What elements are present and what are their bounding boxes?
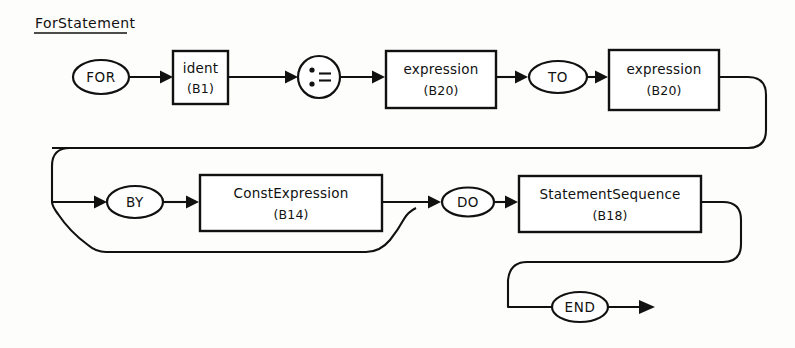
node-statement-sequence[interactable] <box>519 176 701 232</box>
node-end-keyword-label: END <box>565 299 596 315</box>
node-const-expression-label: ConstExpression <box>234 185 349 201</box>
node-ident-label: ident <box>183 60 218 76</box>
arrowhead-into-expression1 <box>372 71 385 84</box>
arrowhead-exit <box>639 300 655 314</box>
node-ident[interactable] <box>173 51 228 104</box>
syntax-diagram-page: ForStatement FOR ident (B1) expression (… <box>0 0 795 348</box>
node-expression-2[interactable] <box>609 50 719 110</box>
rail-row3-left-turnaround <box>508 296 552 307</box>
arrowhead-into-constexpression <box>186 196 199 209</box>
assign-colon-dot-lower <box>309 81 314 86</box>
rail-row2-left-turnaround <box>52 148 96 202</box>
diagram-title: ForStatement <box>35 15 135 31</box>
railroad-diagram: ForStatement FOR ident (B1) expression (… <box>0 0 795 348</box>
assign-colon-dot-upper <box>309 67 314 72</box>
node-to-keyword-label: TO <box>547 69 568 85</box>
arrowhead-into-statementsequence <box>505 196 518 209</box>
arrowhead-into-expression2 <box>595 71 608 84</box>
node-expression-1-label: expression <box>404 61 479 77</box>
node-expression-1-ref: (B20) <box>423 83 458 98</box>
node-statement-sequence-label: StatementSequence <box>539 186 680 202</box>
node-statement-sequence-ref: (B18) <box>592 208 627 223</box>
node-expression-2-label: expression <box>627 61 702 77</box>
node-const-expression-ref: (B14) <box>273 207 308 222</box>
arrowhead-into-to <box>515 71 528 84</box>
node-assign-operator[interactable] <box>298 56 340 98</box>
arrowhead-into-by <box>94 196 107 209</box>
node-const-expression[interactable] <box>200 175 382 231</box>
node-expression-1[interactable] <box>386 51 496 108</box>
node-do-keyword-label: DO <box>457 194 479 210</box>
arrowhead-into-ident <box>160 71 173 84</box>
node-by-keyword-label: BY <box>126 194 144 210</box>
node-expression-2-ref: (B20) <box>646 83 681 98</box>
arrowhead-into-do <box>428 196 441 209</box>
arrowhead-into-assign <box>285 71 298 84</box>
node-for-keyword-label: FOR <box>86 69 116 85</box>
node-ident-ref: (B1) <box>187 81 214 96</box>
